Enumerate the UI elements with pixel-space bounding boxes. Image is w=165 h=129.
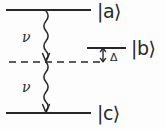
wavy-photon-arrow-upper: [44, 11, 48, 59]
arrowhead-lower: [43, 105, 50, 113]
energy-level-diagram: |a⟩ |b⟩ |c⟩ ν ν Δ: [0, 0, 165, 129]
arrowhead-upper: [43, 54, 50, 62]
diagram-canvas: [0, 0, 165, 129]
level-label-a: |a⟩: [97, 2, 121, 21]
detuning-label: Δ: [110, 52, 118, 63]
photon-frequency-label-upper: ν: [22, 30, 31, 44]
photon-frequency-label-lower: ν: [22, 80, 31, 94]
level-label-b: |b⟩: [131, 39, 155, 58]
wavy-photon-arrow-lower: [44, 62, 48, 110]
level-label-c: |c⟩: [97, 104, 120, 123]
